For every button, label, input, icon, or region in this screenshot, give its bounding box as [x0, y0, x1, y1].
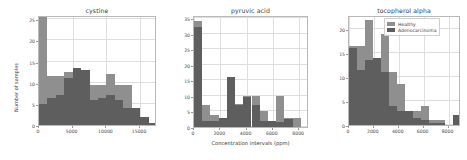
bar-adeno: [373, 58, 381, 125]
x-tick-label: 2000: [367, 129, 379, 134]
bar-adeno: [413, 118, 421, 125]
legend-item: Adenocarcinoma: [387, 27, 436, 33]
legend-swatch-healthy: [387, 22, 395, 26]
bar-adeno: [381, 72, 389, 125]
bar-adeno: [453, 115, 460, 125]
y-tick-mark: [346, 54, 348, 55]
x-tick-label: 0: [347, 129, 350, 134]
bar-adeno: [349, 48, 357, 125]
y-tick-mark: [346, 78, 348, 79]
y-tick-label: 20: [332, 28, 345, 33]
legend-label: Adenocarcinoma: [398, 28, 436, 33]
legend-label: Healthy: [398, 22, 416, 27]
gridline-vertical: [449, 17, 450, 125]
chart-title: tocopherol alpha: [348, 7, 460, 14]
bar-adeno: [421, 120, 429, 125]
bar-adeno: [357, 70, 365, 125]
x-tick-mark: [423, 126, 424, 128]
y-tick-label: 0: [332, 124, 345, 129]
x-tick-label: 4000: [392, 129, 404, 134]
y-tick-mark: [346, 102, 348, 103]
x-tick-label: 6000: [417, 129, 429, 134]
x-tick-mark: [348, 126, 349, 128]
legend-swatch-adenocarcinoma: [387, 28, 395, 32]
bar-adeno: [365, 60, 373, 125]
y-tick-label: 10: [332, 76, 345, 81]
histogram-figure: cystine0500010000150000510152025Number o…: [0, 0, 467, 160]
y-tick-mark: [346, 30, 348, 31]
bar-adeno: [437, 123, 445, 125]
chart-panel-2: tocopherol alpha020004000600080000510152…: [0, 0, 467, 160]
x-tick-mark: [398, 126, 399, 128]
y-tick-label: 15: [332, 52, 345, 57]
bar-adeno: [429, 123, 437, 125]
x-tick-mark: [373, 126, 374, 128]
x-tick-label: 8000: [442, 129, 454, 134]
chart-legend: HealthyAdenocarcinoma: [384, 18, 440, 36]
y-tick-mark: [346, 126, 348, 127]
bar-adeno: [405, 111, 413, 125]
bar-adeno: [389, 106, 397, 125]
x-tick-mark: [448, 126, 449, 128]
y-tick-label: 5: [332, 100, 345, 105]
bar-adeno: [397, 111, 405, 125]
